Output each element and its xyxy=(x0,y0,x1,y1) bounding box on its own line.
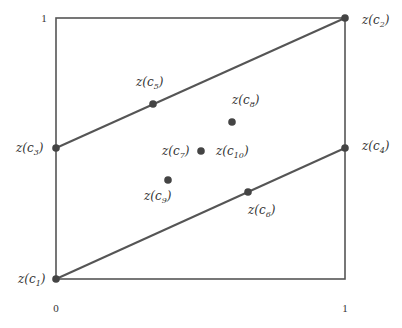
point-c2 xyxy=(341,14,349,22)
x-tick-label: 0 xyxy=(53,302,59,314)
point-c5 xyxy=(149,100,157,108)
label-c8: z(c8) xyxy=(231,93,260,109)
y-tick-label: 1 xyxy=(41,12,47,24)
label-c3: z(c3) xyxy=(15,141,44,157)
label-c5: z(c5) xyxy=(135,75,164,91)
point-c8 xyxy=(228,118,236,126)
point-c3 xyxy=(52,144,60,152)
label-c7: z(c7) xyxy=(161,144,190,160)
label-c10: z(c10) xyxy=(215,144,249,160)
diagram-canvas: z(c1)z(c2)z(c3)z(c4)z(c5)z(c6)z(c7)z(c8)… xyxy=(0,0,402,328)
label-c1: z(c1) xyxy=(17,272,46,288)
label-c9: z(c9) xyxy=(143,189,172,205)
label-c2: z(c2) xyxy=(361,13,390,29)
point-c1 xyxy=(52,275,60,283)
point-group xyxy=(52,14,349,283)
label-c4: z(c4) xyxy=(361,139,390,155)
label-c6: z(c6) xyxy=(247,203,276,219)
point-c9 xyxy=(164,176,172,184)
upper-line xyxy=(56,18,345,148)
point-c7 xyxy=(197,147,205,155)
x-tick-label: 1 xyxy=(342,302,348,314)
lower-line xyxy=(56,148,345,279)
point-c6 xyxy=(244,188,252,196)
point-c4 xyxy=(341,144,349,152)
tick-group: 011 xyxy=(41,12,348,314)
